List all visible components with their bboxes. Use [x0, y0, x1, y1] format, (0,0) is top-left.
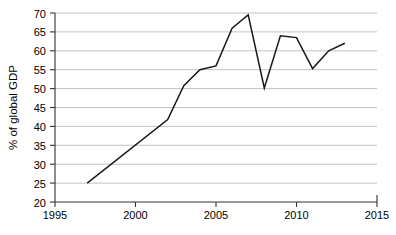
- chart-figure: 70 65 60 55 50 45 40 35 30 25 20 1995 20…: [0, 0, 396, 235]
- x-tick-label-1995: 1995: [43, 209, 67, 221]
- x-tick-label-2010: 2010: [284, 209, 308, 221]
- y-tick-label-50: 50: [34, 83, 46, 95]
- y-tick-label-55: 55: [34, 64, 46, 76]
- y-axis-tick-labels: 70 65 60 55 50 45 40 35 30 25 20: [34, 8, 46, 209]
- y-tick-label-45: 45: [34, 102, 46, 114]
- line-chart: 70 65 60 55 50 45 40 35 30 25 20 1995 20…: [0, 0, 396, 235]
- y-tick-label-70: 70: [34, 8, 46, 20]
- y-tick-label-40: 40: [34, 121, 46, 133]
- x-tick-label-2015: 2015: [365, 209, 389, 221]
- y-tick-label-35: 35: [34, 140, 46, 152]
- y-tick-label-30: 30: [34, 159, 46, 171]
- y-tick-label-25: 25: [34, 178, 46, 190]
- chart-background: [0, 0, 396, 235]
- y-tick-label-20: 20: [34, 197, 46, 209]
- y-tick-label-65: 65: [34, 26, 46, 38]
- y-axis-title: % of global GDP: [7, 65, 19, 150]
- x-tick-label-2005: 2005: [204, 209, 228, 221]
- y-tick-label-60: 60: [34, 45, 46, 57]
- x-tick-label-2000: 2000: [123, 209, 147, 221]
